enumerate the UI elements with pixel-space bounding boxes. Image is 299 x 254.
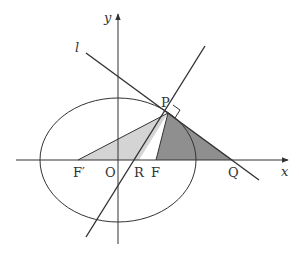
point-p-label: P	[161, 95, 170, 110]
tangent-line-l	[86, 53, 259, 180]
x-axis-label: x	[281, 164, 289, 179]
point-f-prime-label: F′	[73, 165, 85, 180]
y-axis-label: y	[103, 10, 112, 25]
line-l-label: l	[75, 40, 79, 55]
point-f-label: F	[151, 165, 160, 180]
point-r-label: R	[134, 165, 145, 180]
ellipse-tangent-normal-diagram: y x l P F′ O R F Q	[0, 0, 299, 254]
origin-label: O	[105, 165, 116, 180]
right-angle-marker	[173, 105, 180, 118]
point-q-label: Q	[228, 165, 239, 180]
